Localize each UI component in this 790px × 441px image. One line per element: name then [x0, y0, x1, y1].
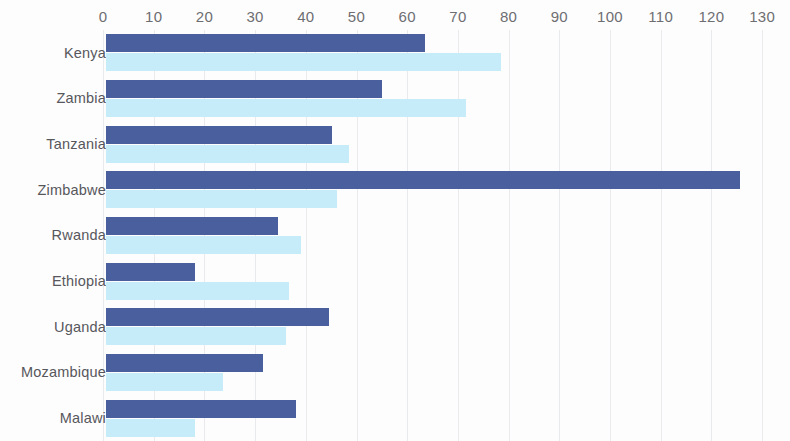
category-group: Zimbabwe — [0, 167, 790, 213]
bar-series-secondary — [106, 419, 195, 437]
category-group: Uganda — [0, 304, 790, 350]
category-label: Zimbabwe — [38, 182, 107, 198]
x-tick-label: 100 — [597, 8, 623, 25]
bar-series-secondary — [106, 145, 349, 163]
category-label: Zambia — [56, 90, 106, 106]
category-group: Mozambique — [0, 350, 790, 396]
category-label: Ethiopia — [52, 273, 106, 289]
x-tick-label: 130 — [749, 8, 775, 25]
x-tick-label: 120 — [698, 8, 724, 25]
bar-chart: 0102030405060708090100110120130 KenyaZam… — [0, 0, 790, 441]
x-tick-label: 10 — [145, 8, 162, 25]
bar-series-secondary — [106, 327, 286, 345]
category-label: Mozambique — [21, 364, 106, 380]
x-tick-label: 60 — [399, 8, 416, 25]
bar-series-secondary — [106, 190, 337, 208]
category-group: Zambia — [0, 76, 790, 122]
x-tick-label: 50 — [348, 8, 365, 25]
category-group: Malawi — [0, 395, 790, 441]
x-tick-label: 30 — [246, 8, 263, 25]
x-tick-label: 0 — [99, 8, 108, 25]
bar-series-primary — [106, 80, 382, 98]
category-label: Malawi — [60, 410, 106, 426]
bar-series-primary — [106, 126, 332, 144]
category-label: Tanzania — [46, 136, 106, 152]
bar-series-primary — [106, 263, 195, 281]
x-tick-label: 70 — [449, 8, 466, 25]
x-tick-label: 90 — [551, 8, 568, 25]
bar-series-secondary — [106, 236, 301, 254]
x-tick-label: 20 — [196, 8, 213, 25]
bar-series-primary — [106, 354, 263, 372]
category-group: Rwanda — [0, 213, 790, 259]
category-group: Tanzania — [0, 121, 790, 167]
category-label: Rwanda — [52, 227, 106, 243]
bar-series-secondary — [106, 53, 501, 71]
bar-series-primary — [106, 34, 425, 52]
category-label: Kenya — [64, 45, 106, 61]
x-tick-label: 80 — [500, 8, 517, 25]
x-axis: 0102030405060708090100110120130 — [0, 0, 790, 32]
bar-series-primary — [106, 308, 329, 326]
bar-series-primary — [106, 400, 296, 418]
chart-plot-area: KenyaZambiaTanzaniaZimbabweRwandaEthiopi… — [0, 30, 790, 441]
bar-series-primary — [106, 171, 740, 189]
bar-series-secondary — [106, 282, 289, 300]
bar-series-secondary — [106, 99, 466, 117]
x-tick-label: 40 — [297, 8, 314, 25]
category-label: Uganda — [54, 319, 106, 335]
category-group: Kenya — [0, 30, 790, 76]
bar-series-secondary — [106, 373, 223, 391]
category-group: Ethiopia — [0, 258, 790, 304]
x-tick-label: 110 — [648, 8, 673, 25]
bar-series-primary — [106, 217, 278, 235]
